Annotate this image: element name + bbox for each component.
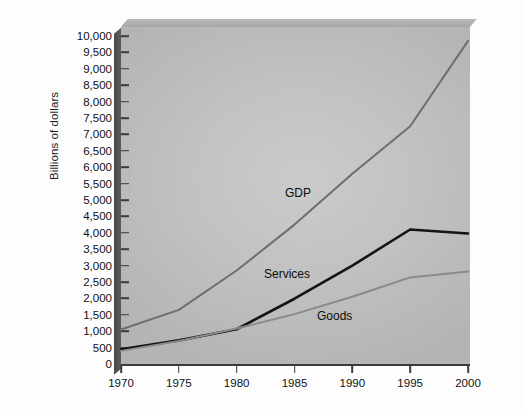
y-tick-label: 3,000: [83, 260, 112, 272]
x-tick-mark: [120, 365, 122, 373]
x-tick-label: 1985: [282, 377, 308, 389]
y-tick-label: 3,500: [83, 243, 112, 255]
y-tick-label: 1,500: [83, 309, 112, 321]
x-tick-label: 2000: [455, 377, 481, 389]
y-tick-mark: [121, 183, 129, 185]
y-tick-mark: [121, 199, 129, 201]
x-tick-label: 1990: [340, 377, 366, 389]
y-tick-mark: [121, 347, 129, 349]
x-tick-label: 1975: [166, 377, 192, 389]
y-tick-label: 10,000: [77, 30, 112, 42]
y-tick-mark: [121, 314, 129, 316]
y-tick-mark: [121, 84, 129, 86]
y-tick-mark: [121, 101, 129, 103]
y-tick-mark: [121, 150, 129, 152]
y-tick-mark: [121, 52, 129, 54]
x-tick-mark: [294, 365, 296, 373]
y-tick-mark: [121, 166, 129, 168]
y-tick-mark: [121, 232, 129, 234]
y-tick-mark: [121, 281, 129, 283]
y-tick-mark: [121, 248, 129, 250]
y-tick-label: 6,000: [83, 161, 112, 173]
x-tick-mark: [352, 365, 354, 373]
y-tick-label: 0: [106, 358, 112, 370]
x-tick-mark: [409, 365, 411, 373]
series-label-gdp: GDP: [285, 186, 311, 200]
x-tick-mark: [178, 365, 180, 373]
x-tick-label: 1995: [397, 377, 423, 389]
y-tick-label: 5,000: [83, 194, 112, 206]
y-tick-label: 500: [93, 342, 112, 354]
y-tick-mark: [121, 330, 129, 332]
y-tick-label: 8,500: [83, 79, 112, 91]
x-axis-line: [121, 364, 470, 366]
x-tick-mark: [236, 365, 238, 373]
y-tick-mark: [121, 117, 129, 119]
y-tick-label: 1,000: [83, 325, 112, 337]
x-tick-label: 1970: [108, 377, 134, 389]
plot-top-bevel: [121, 19, 477, 27]
y-tick-mark: [121, 134, 129, 136]
x-tick-mark: [467, 365, 469, 373]
y-tick-label: 7,500: [83, 112, 112, 124]
y-tick-mark: [121, 265, 129, 267]
y-tick-label: 5,500: [83, 178, 112, 190]
x-tick-label: 1980: [224, 377, 250, 389]
series-label-services: Services: [264, 267, 310, 281]
y-tick-label: 2,000: [83, 292, 112, 304]
y-axis-tick-labels: 10,0009,5009,0008,5008,0007,5007,0006,50…: [58, 25, 112, 365]
y-tick-mark: [121, 35, 129, 37]
y-tick-label: 6,500: [83, 145, 112, 157]
y-tick-label: 4,000: [83, 227, 112, 239]
y-tick-label: 8,000: [83, 96, 112, 108]
y-tick-mark: [121, 68, 129, 70]
y-tick-mark: [121, 298, 129, 300]
chart-figure: Billions of dollars 10,0009,5009,0008,50…: [0, 0, 524, 414]
y-tick-mark: [121, 216, 129, 218]
y-tick-label: 9,000: [83, 63, 112, 75]
y-tick-label: 2,500: [83, 276, 112, 288]
y-tick-label: 9,500: [83, 46, 112, 58]
y-tick-label: 7,000: [83, 128, 112, 140]
series-label-goods: Goods: [317, 309, 352, 323]
y-tick-label: 4,500: [83, 210, 112, 222]
